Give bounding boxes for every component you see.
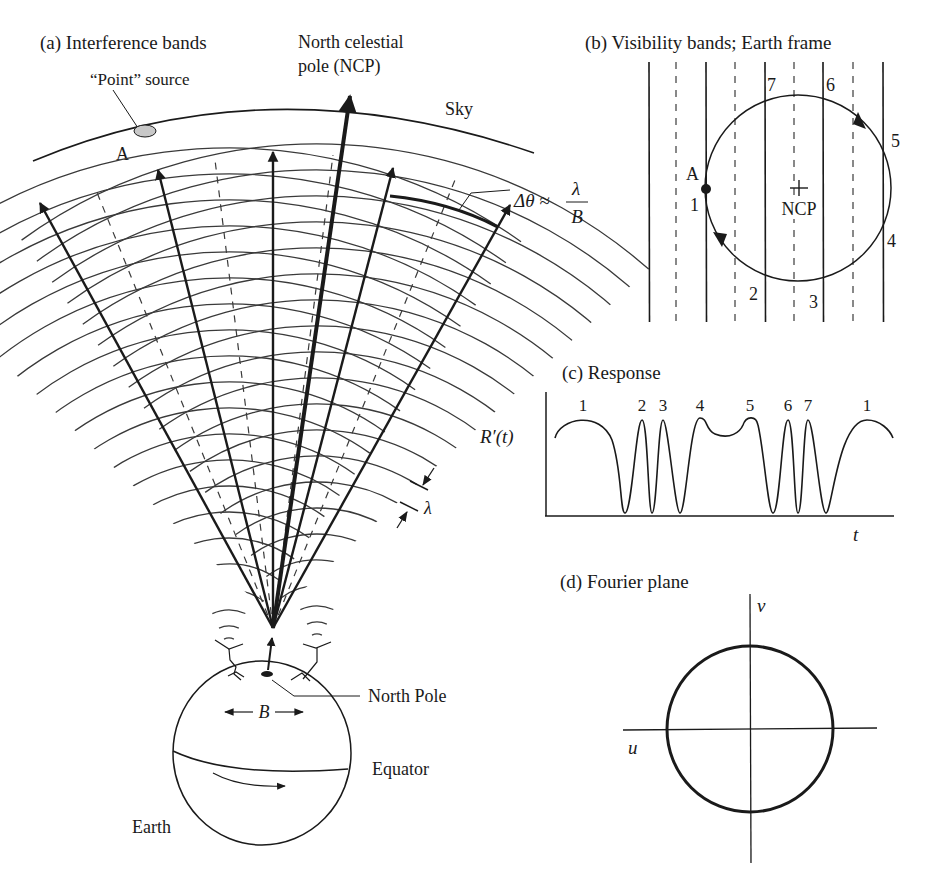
response-peak-label: 6 bbox=[784, 396, 793, 415]
near-field-arc bbox=[212, 610, 245, 614]
panel-c-title: (c) Response bbox=[562, 362, 661, 384]
earth-globe[interactable] bbox=[173, 661, 351, 845]
crossing-label-5: 5 bbox=[891, 131, 900, 151]
response-peak-label: 4 bbox=[696, 396, 705, 415]
wavefront-arc bbox=[113, 300, 581, 423]
response-peak-label: 3 bbox=[659, 396, 668, 415]
equator-line bbox=[173, 751, 348, 771]
crossing-label-6: 6 bbox=[826, 75, 835, 95]
crossing-label-1: 1 bbox=[690, 195, 699, 215]
response-peak-label: 2 bbox=[638, 396, 647, 415]
lambda-label: λ bbox=[423, 498, 432, 518]
near-field-arc bbox=[219, 626, 239, 628]
north-pole-label: North Pole bbox=[368, 686, 447, 706]
wavefront-arc bbox=[0, 304, 430, 429]
fringe-arrow bbox=[273, 168, 393, 628]
lambda-arrow-upper bbox=[423, 468, 434, 485]
north-pole-leader bbox=[272, 680, 360, 696]
baseline-label: B bbox=[259, 702, 270, 722]
crossing-label-7: 7 bbox=[767, 75, 776, 95]
near-field-arc bbox=[312, 634, 322, 635]
point-source-leader bbox=[113, 90, 138, 128]
wavefront-arc bbox=[63, 434, 355, 512]
point-source-label: “Point” source bbox=[90, 70, 190, 89]
response-peak-label: 7 bbox=[804, 396, 813, 415]
response-x-label: t bbox=[853, 524, 859, 545]
fringe-arrow bbox=[158, 170, 273, 628]
ncp-label-line2: pole (NCP) bbox=[298, 56, 381, 77]
delta-theta-denominator: B bbox=[571, 206, 583, 227]
fringe-arrow bbox=[40, 203, 273, 628]
figure-canvas: (a) Interference bands North celestial p… bbox=[0, 0, 925, 884]
antenna-right[interactable] bbox=[291, 642, 331, 681]
equator-label: Equator bbox=[372, 759, 429, 779]
panel-d-title: (d) Fourier plane bbox=[560, 571, 689, 593]
lambda-arrow-lower bbox=[397, 512, 407, 528]
point-source-blob[interactable] bbox=[134, 125, 156, 137]
wavefront-arc bbox=[83, 248, 622, 390]
response-peak-label: 5 bbox=[746, 396, 755, 415]
ncp-label-line1: North celestial bbox=[298, 32, 403, 52]
u-label: u bbox=[628, 737, 638, 758]
band-max-line bbox=[823, 62, 824, 322]
wavefront-arc bbox=[123, 512, 310, 562]
panel-b: (b) Visibility bands; Earth frame A NCP … bbox=[585, 32, 900, 322]
wavefront-arc bbox=[175, 404, 503, 490]
response-peak-label: 1 bbox=[579, 396, 588, 415]
crossing-label-2: 2 bbox=[749, 284, 758, 304]
panel-a-title: (a) Interference bands bbox=[40, 32, 207, 54]
wavefront-arc bbox=[37, 170, 681, 339]
rotation-arrow bbox=[213, 773, 285, 786]
panel-c: (c) Response R′(t) t 12345671 bbox=[479, 362, 894, 545]
panel-d: (d) Fourier plane u v bbox=[560, 571, 877, 863]
near-field-arc bbox=[307, 622, 327, 624]
delta-theta-arc bbox=[390, 196, 498, 227]
crossing-label-4: 4 bbox=[887, 231, 896, 251]
earth-axis-arrow bbox=[268, 638, 272, 670]
delta-theta-numerator: λ bbox=[571, 178, 580, 199]
ncp-arrow bbox=[273, 96, 350, 628]
wavefront-arc bbox=[129, 326, 562, 440]
near-field-arc bbox=[224, 638, 234, 639]
wavefront-arc bbox=[0, 278, 445, 413]
near-field-arc bbox=[300, 606, 333, 610]
wavefront-arc bbox=[0, 174, 506, 346]
panel-b-title: (b) Visibility bands; Earth frame bbox=[585, 32, 832, 54]
band-max-line bbox=[649, 62, 650, 322]
panel-a: (a) Interference bands North celestial p… bbox=[0, 32, 701, 845]
response-curve bbox=[555, 418, 893, 513]
fringe-arrow bbox=[273, 205, 510, 628]
wavefront-arc bbox=[183, 590, 264, 612]
delta-theta-lhs: Δθ ≈ bbox=[513, 190, 550, 211]
north-pole-marker bbox=[261, 671, 273, 677]
source-a-dot[interactable] bbox=[701, 184, 711, 194]
lambda-tick-lower bbox=[400, 502, 418, 511]
crossing-label-3: 3 bbox=[809, 292, 818, 312]
sky-label: Sky bbox=[445, 99, 473, 119]
v-label: v bbox=[757, 595, 766, 616]
panel-b-ncp-label: NCP bbox=[781, 199, 816, 219]
earth-label: Earth bbox=[132, 817, 171, 837]
wavefront-arc bbox=[236, 508, 423, 557]
wavefront-arc bbox=[98, 274, 601, 406]
response-peak-labels: 12345671 bbox=[579, 396, 872, 415]
antenna-left[interactable] bbox=[215, 640, 244, 680]
band-max-line bbox=[883, 62, 884, 322]
response-peak-label: 1 bbox=[863, 396, 872, 415]
response-y-label: R′(t) bbox=[479, 426, 514, 448]
panel-b-source-label: A bbox=[686, 164, 699, 184]
